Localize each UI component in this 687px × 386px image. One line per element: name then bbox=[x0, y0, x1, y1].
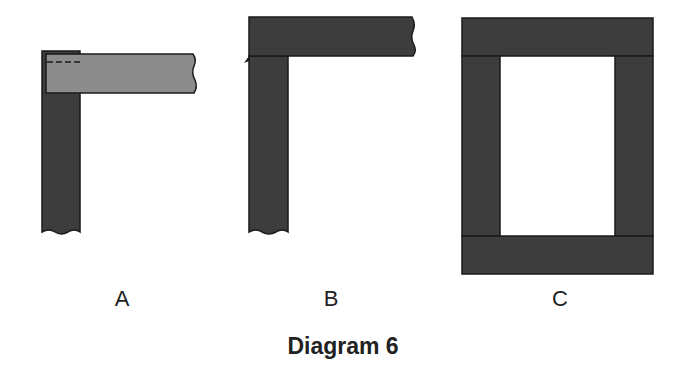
figure-a-label: A bbox=[115, 286, 130, 312]
diagram-caption: Diagram 6 bbox=[287, 333, 398, 360]
figure-c bbox=[462, 18, 653, 274]
figure-c-top-rail bbox=[462, 18, 653, 56]
figure-c-right-stile bbox=[615, 56, 653, 236]
figure-a bbox=[42, 51, 196, 234]
figure-b bbox=[244, 17, 415, 234]
figure-b-label: B bbox=[324, 286, 339, 312]
figure-b-vertical-piece bbox=[249, 56, 288, 234]
diagram-canvas bbox=[0, 0, 687, 386]
figure-a-horizontal-piece bbox=[46, 54, 196, 93]
figure-b-horizontal-piece bbox=[249, 17, 415, 56]
figure-c-left-stile bbox=[462, 56, 500, 236]
figure-c-bottom-rail bbox=[462, 236, 653, 274]
figure-c-label: C bbox=[552, 286, 568, 312]
